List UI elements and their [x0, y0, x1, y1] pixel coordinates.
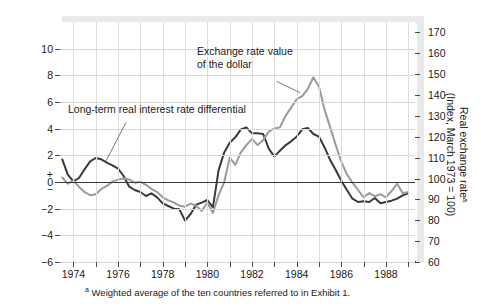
y-tick-right	[415, 262, 420, 263]
y-tick-left	[55, 235, 60, 236]
gridline-vertical	[341, 22, 342, 262]
x-tick-label: 1984	[285, 268, 308, 280]
y-tick-label-right: 90	[428, 193, 440, 205]
x-tick	[408, 262, 409, 267]
x-tick	[341, 262, 342, 267]
y-tick-right	[415, 158, 420, 159]
gridline-vertical	[96, 22, 97, 262]
series-line	[62, 127, 408, 220]
gridline-horizontal	[60, 209, 415, 210]
y-tick-right	[415, 53, 420, 54]
y-axis-left-title: Real interest rate differential (percent…	[0, 0, 24, 38]
y-tick-label-left: −4	[41, 229, 53, 241]
gridline-horizontal	[60, 155, 415, 156]
y-tick-left	[55, 209, 60, 210]
y-tick-left	[55, 155, 60, 156]
y-tick-label-right: 170	[428, 26, 446, 38]
y-tick-label-left: 2	[47, 149, 53, 161]
footnote-text: Weighted average of the ten countries re…	[92, 287, 351, 298]
x-tick	[96, 262, 97, 267]
y-tick-left	[55, 75, 60, 76]
y-tick-label-left: 10	[41, 43, 53, 55]
x-tick	[297, 262, 298, 267]
gridline-vertical	[73, 22, 74, 262]
y-tick-label-right: 140	[428, 89, 446, 101]
x-tick	[140, 262, 141, 267]
x-tick-label: 1980	[196, 268, 219, 280]
y-tick-label-right: 100	[428, 173, 446, 185]
x-tick	[252, 262, 253, 267]
zero-marker-glyph-2: −	[47, 186, 53, 194]
x-tick-label: 1982	[240, 268, 263, 280]
y-tick-label-left: 4	[47, 123, 53, 135]
y-tick-left	[55, 262, 60, 263]
y-tick-label-right: 150	[428, 68, 446, 80]
zero-reference-line	[60, 182, 415, 183]
gridline-vertical	[386, 22, 387, 262]
y-tick-right	[415, 95, 420, 96]
y-tick-label-right: 60	[428, 256, 440, 268]
y-tick-right	[415, 199, 420, 200]
footnote-marker: a	[85, 286, 89, 293]
chart-figure: Real interest rate differential (percent…	[0, 0, 481, 308]
x-tick	[274, 262, 275, 267]
y-tick-left	[55, 129, 60, 130]
x-tick	[364, 262, 365, 267]
y-tick-label-right: 120	[428, 131, 446, 143]
y-axis-right-title: Real exchange rateᵃ (Index, March 1973 =…	[444, 62, 470, 247]
y-tick-label-left: 8	[47, 69, 53, 81]
y-tick-right	[415, 179, 420, 180]
y-tick-label-right: 80	[428, 214, 440, 226]
x-tick-label: 1986	[330, 268, 353, 280]
y-tick-right	[415, 74, 420, 75]
y-tick-label-right: 160	[428, 47, 446, 59]
y-tick-label-right: 70	[428, 235, 440, 247]
x-tick-label: 1978	[151, 268, 174, 280]
x-tick	[386, 262, 387, 267]
x-tick	[73, 262, 74, 267]
series-line	[62, 77, 408, 213]
annotation-interest-differential: Long-term real interest rate differentia…	[68, 103, 246, 116]
gridline-vertical	[297, 22, 298, 262]
x-tick-label: 1976	[106, 268, 129, 280]
gridline-horizontal	[60, 75, 415, 76]
y-tick-label-right: 110	[428, 152, 445, 164]
x-tick-label: 1988	[374, 268, 397, 280]
y-tick-label-left: −6	[41, 256, 53, 268]
gridline-vertical	[118, 22, 119, 262]
y-tick-label-left: 6	[47, 96, 53, 108]
y-tick-right	[415, 137, 420, 138]
y-tick-right	[415, 241, 420, 242]
annotation-exchange-rate: Exchange rate value of the dollar	[197, 45, 293, 70]
y-axis-right-title-line1: Real exchange rateᵃ (Index, March 1973 =…	[445, 93, 470, 216]
gridline-vertical	[319, 22, 320, 262]
x-tick	[319, 262, 320, 267]
x-tick	[163, 262, 164, 267]
x-tick	[230, 262, 231, 267]
gridline-horizontal	[60, 129, 415, 130]
gridline-vertical	[163, 22, 164, 262]
y-tick-label-left: −2	[41, 203, 53, 215]
y-tick-left	[55, 49, 60, 50]
chart-footnote: a Weighted average of the ten countries …	[85, 286, 350, 298]
gridline-vertical	[408, 22, 409, 262]
x-tick	[118, 262, 119, 267]
y-tick-left	[55, 102, 60, 103]
y-tick-right	[415, 32, 420, 33]
y-tick-label-right: 130	[428, 110, 446, 122]
y-axis-zero-marker: +0−	[47, 171, 53, 194]
gridline-vertical	[185, 22, 186, 262]
gridline-horizontal	[60, 262, 415, 263]
x-tick-label: 1974	[62, 268, 85, 280]
y-tick-right	[415, 116, 420, 117]
x-tick	[207, 262, 208, 267]
gridline-vertical	[140, 22, 141, 262]
x-tick	[185, 262, 186, 267]
y-tick-right	[415, 220, 420, 221]
gridline-horizontal	[60, 235, 415, 236]
gridline-vertical	[364, 22, 365, 262]
